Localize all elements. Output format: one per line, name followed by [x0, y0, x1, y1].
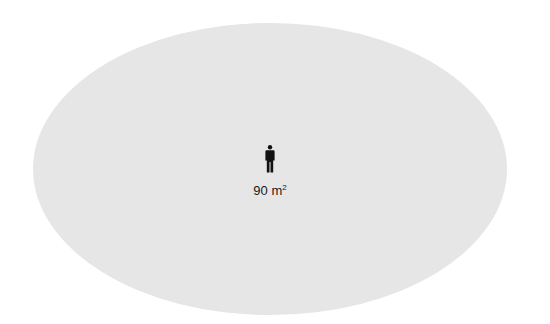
- area-value: 90: [253, 183, 267, 198]
- area-label: 90 m2: [220, 183, 320, 199]
- area-unit-exponent: 2: [282, 183, 286, 192]
- area-unit: m: [271, 183, 282, 198]
- person-icon: [265, 145, 275, 173]
